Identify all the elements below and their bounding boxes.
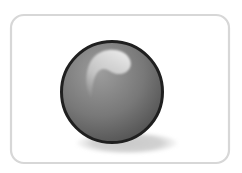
gray-ball-illustration — [0, 0, 242, 173]
illustration-canvas — [0, 0, 242, 173]
